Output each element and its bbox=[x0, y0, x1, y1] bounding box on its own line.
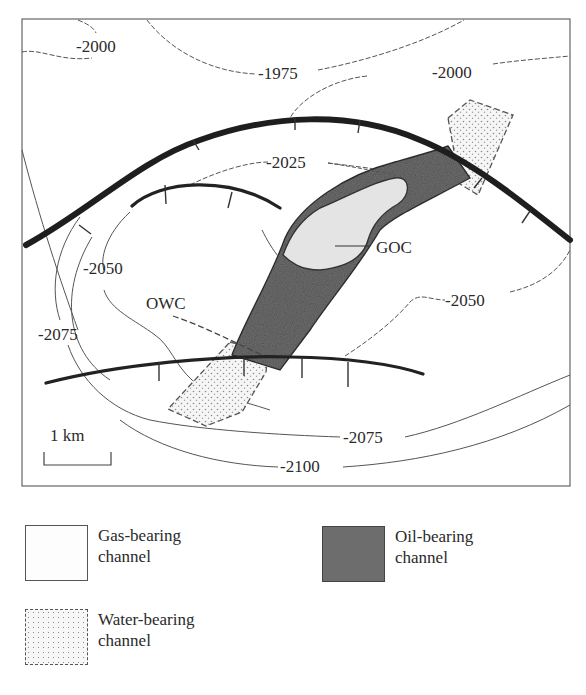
contour-1975 bbox=[147, 20, 464, 74]
reservoir-structure-map: -2000 -1975 -2000 -2025 -2050 -2050 -207… bbox=[0, 0, 586, 695]
legend-item-water: Water-bearing channel bbox=[25, 609, 238, 665]
label-contour-2075-bottom: -2075 bbox=[343, 428, 383, 447]
legend-gas-line1: Gas-bearing bbox=[98, 525, 238, 546]
scale-bar-label: 1 km bbox=[50, 426, 84, 445]
water-swatch bbox=[25, 609, 88, 665]
label-contour-2000-topleft: -2000 bbox=[76, 37, 116, 56]
label-contour-2075-left: -2075 bbox=[38, 325, 78, 344]
legend-gas-line2: channel bbox=[98, 546, 238, 567]
legend-item-oil: Oil-bearing channel bbox=[322, 526, 535, 582]
contour-labels: -2000 -1975 -2000 -2025 -2050 -2050 -207… bbox=[38, 37, 485, 476]
gas-swatch bbox=[25, 525, 88, 581]
legend-water-line1: Water-bearing bbox=[98, 609, 238, 630]
label-contour-2025: -2025 bbox=[266, 153, 306, 172]
contour-2000-topright bbox=[290, 56, 570, 118]
legend-oil-line1: Oil-bearing bbox=[395, 526, 535, 547]
label-contour-1975: -1975 bbox=[258, 64, 298, 83]
legend-oil-line2: channel bbox=[395, 547, 535, 568]
label-contour-2000-topright: -2000 bbox=[432, 63, 472, 82]
label-contour-2050-right: -2050 bbox=[445, 291, 485, 310]
scale-bar-line bbox=[44, 452, 111, 465]
label-owc: OWC bbox=[146, 294, 186, 313]
scale-bar: 1 km bbox=[44, 426, 111, 465]
legend-water-line2: channel bbox=[98, 630, 238, 651]
label-goc: GOC bbox=[376, 238, 412, 257]
label-contour-2100: -2100 bbox=[280, 457, 320, 476]
fault-upper-minor bbox=[132, 185, 280, 208]
oil-swatch bbox=[322, 526, 385, 582]
legend-item-gas: Gas-bearing channel bbox=[25, 525, 238, 581]
label-contour-2050-left: -2050 bbox=[83, 259, 123, 278]
